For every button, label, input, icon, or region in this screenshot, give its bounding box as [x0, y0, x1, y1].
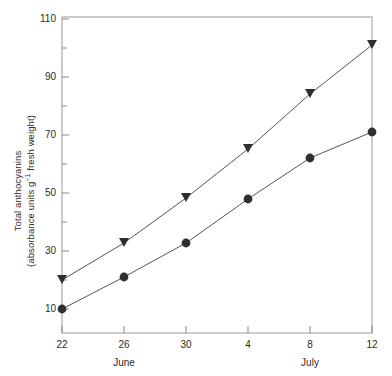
data-point-marker — [244, 195, 253, 204]
data-point-marker — [120, 273, 129, 282]
data-point-marker — [58, 305, 67, 314]
data-point-marker — [306, 154, 315, 163]
data-point-marker — [368, 128, 377, 137]
data-point-marker — [182, 239, 191, 248]
plot-area — [0, 0, 392, 376]
plot-frame — [62, 17, 372, 333]
anthocyanins-line-chart: Total anthocyanins (absorbance units g−1… — [0, 0, 392, 376]
